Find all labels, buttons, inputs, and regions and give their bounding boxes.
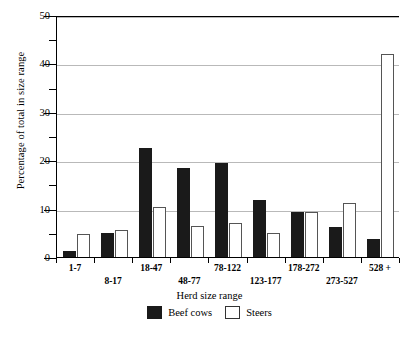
x-tick-label: 8-17 [104,277,121,287]
x-tick-label: 178-272 [288,264,320,274]
bar-group [57,17,400,258]
x-tick-label: 123-177 [250,277,282,287]
plot-area [56,16,399,258]
chart-figure: Percentage of total in size range 010203… [0,0,419,339]
x-tick [285,258,286,263]
x-tick [247,258,248,263]
legend-swatch-steers [225,306,240,319]
y-tick-label: 20 [22,156,50,167]
y-tick-label: 50 [22,11,50,22]
y-tick-minor [49,185,56,186]
x-tick-label: 273-527 [326,277,358,287]
x-tick [56,258,57,263]
x-tick-label: 48-77 [178,277,200,287]
y-tick-label: 30 [22,108,50,119]
legend-item-beef-cows: Beef cows [147,306,212,319]
x-tick [170,258,171,263]
x-tick [132,258,133,263]
chart-legend: Beef cows Steers [0,306,419,319]
x-tick-label: 18-47 [140,264,162,274]
x-tick [94,258,95,263]
bar-steers [381,54,394,258]
x-tick-label: 78-122 [214,264,241,274]
legend-label-steers: Steers [246,307,272,318]
legend-label-beef-cows: Beef cows [168,307,212,318]
x-tick-label: 1-7 [69,264,82,274]
y-tick-minor [49,234,56,235]
x-tick [399,258,400,263]
x-tick [361,258,362,263]
y-tick-label: 10 [22,205,50,216]
y-axis-title: Percentage of total in size range [15,6,26,236]
y-tick-minor [49,89,56,90]
x-axis-line [57,257,399,258]
x-tick [208,258,209,263]
y-tick-minor [49,40,56,41]
x-tick [323,258,324,263]
legend-item-steers: Steers [225,306,272,319]
bar-beef-cows [367,239,380,258]
legend-swatch-beef-cows [147,306,162,319]
y-tick-label: 0 [22,253,50,264]
x-axis-title: Herd size range [0,290,419,301]
y-tick-minor [49,137,56,138]
y-tick-label: 40 [22,59,50,70]
x-tick-label: 528 + [369,264,391,274]
